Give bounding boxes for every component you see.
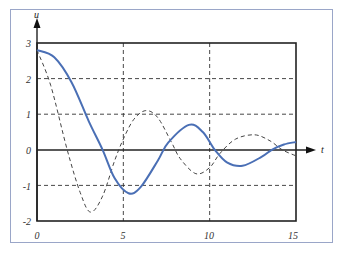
x-tick-labels: 0 5 10 15 [35,230,299,241]
y-tick-labels: 3 2 1 0 -1 -2 [23,38,31,227]
y-tick-label: 2 [26,74,31,85]
x-tick-label: 5 [121,230,126,241]
y-tick-label: 1 [26,109,31,120]
chart-plot: t u 0 5 10 15 3 2 1 0 -1 -2 [0,0,345,258]
y-tick-label: 0 [26,145,31,156]
x-axis-arrow-icon [306,147,316,154]
series-line-solid [37,50,296,194]
grid-lines [37,43,296,221]
y-tick-label: -2 [23,216,31,227]
y-tick-label: 3 [25,38,31,49]
x-axis-label: t [321,144,324,155]
series-line-dashed [37,50,296,212]
x-tick-label: 10 [204,230,214,241]
plot-box [37,43,296,221]
x-tick-label: 0 [35,230,40,241]
x-tick-label: 15 [288,230,298,241]
data-series [37,50,296,212]
y-tick-label: -1 [23,181,31,192]
y-axis-label: u [34,9,39,20]
